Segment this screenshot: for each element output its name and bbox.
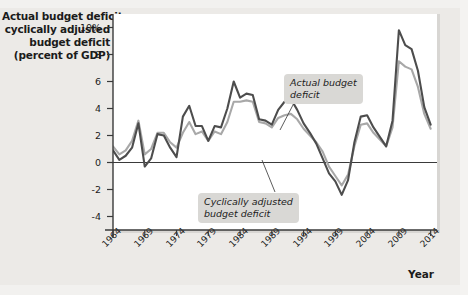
page-right-band bbox=[460, 0, 468, 295]
y-tick-label-10%: 10% bbox=[67, 22, 101, 33]
figure-container: Actual budget deficit, cyclically adjust… bbox=[0, 0, 468, 295]
x-axis-label: Year bbox=[408, 268, 434, 280]
annotation-cyc-line-2: budget deficit bbox=[204, 208, 293, 220]
y-tick-label--2: -2 bbox=[67, 184, 101, 195]
annotation-cyclically-adjusted-deficit: Cyclically adjusted budget deficit bbox=[198, 193, 299, 223]
annotation-actual-line-1: Actual budget bbox=[290, 77, 357, 89]
y-tick-label-0: 0 bbox=[67, 157, 101, 168]
y-tick-label-6: 6 bbox=[67, 76, 101, 87]
y-tick-label-4: 4 bbox=[67, 103, 101, 114]
series-line-actual-budget-deficit bbox=[113, 30, 431, 195]
y-axis-title-line-3: budget deficit bbox=[2, 36, 110, 49]
annotation-actual-line-2: deficit bbox=[290, 89, 357, 101]
page-top-band bbox=[0, 0, 468, 8]
page-bottom-band bbox=[0, 285, 468, 295]
series-layer bbox=[113, 30, 437, 195]
annotation-actual-budget-deficit: Actual budget deficit bbox=[284, 74, 363, 104]
y-tick-label-2: 2 bbox=[67, 130, 101, 141]
annotation-cyc-line-1: Cyclically adjusted bbox=[204, 196, 293, 208]
y-tick-label--4: -4 bbox=[67, 211, 101, 222]
y-tick-label-8: 8 bbox=[67, 49, 101, 60]
